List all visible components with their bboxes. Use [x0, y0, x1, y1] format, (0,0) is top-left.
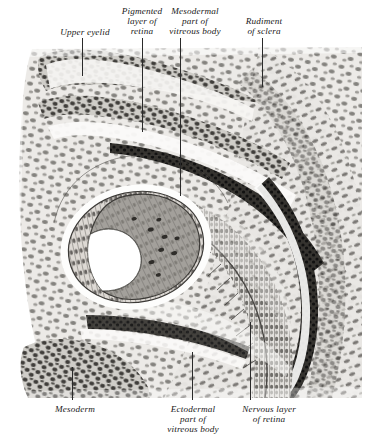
label-ectodermal-vitreous: Ectodermal part of vitreous body — [155, 404, 231, 435]
leader-ectodermal-vitreous — [192, 352, 193, 400]
leader-nervous-layer — [250, 322, 251, 400]
leader-rudiment-sclera — [262, 38, 263, 87]
leader-mesoderm — [72, 367, 73, 400]
histology-illustration — [14, 47, 362, 398]
leader-pigmented-layer — [142, 38, 143, 132]
label-mesodermal-vitreous: Mesodermal part of vitreous body — [157, 6, 233, 37]
leader-upper-eyelid — [82, 38, 83, 76]
leader-mesodermal-vitreous — [180, 38, 181, 196]
label-nervous-layer: Nervous layer of retina — [229, 404, 309, 424]
label-rudiment-sclera: Rudiment of sclera — [231, 16, 297, 36]
label-mesoderm: Mesoderm — [40, 404, 110, 414]
figure-plate: Upper eyelid Pigmented layer of retina M… — [0, 0, 375, 445]
